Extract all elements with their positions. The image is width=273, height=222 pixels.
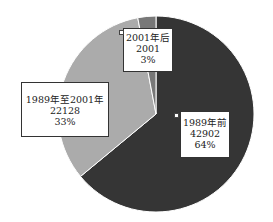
- label-after-2001-percent: 3%: [124, 54, 172, 65]
- label-before-1989-name: 1989年前: [181, 117, 229, 128]
- label-1989-2001-value: 22128: [22, 105, 108, 116]
- label-before-1989-value: 42902: [181, 128, 229, 139]
- label-1989-2001-name: 1989年至2001年: [22, 94, 108, 105]
- label-1989-2001: 1989年至2001年 22128 33%: [21, 82, 109, 137]
- label-after-2001-name: 2001年后: [124, 32, 172, 43]
- label-before-1989: 1989年前 42902 64%: [180, 111, 230, 158]
- label-after-2001: 2001年后 2001 3%: [123, 28, 173, 72]
- label-marker-before-1989: [174, 113, 179, 118]
- label-after-2001-value: 2001: [124, 43, 172, 54]
- label-marker-after-2001: [119, 30, 124, 35]
- label-before-1989-percent: 64%: [181, 139, 229, 150]
- label-1989-2001-percent: 33%: [22, 116, 108, 127]
